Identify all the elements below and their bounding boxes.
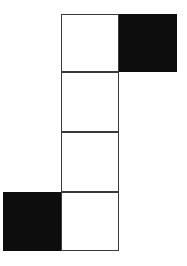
cell-top-white	[61, 14, 119, 72]
cell-third-white	[61, 132, 119, 192]
cell-top-right-black	[119, 14, 177, 72]
cell-bottom-left-black	[3, 192, 61, 251]
cell-bottom-white	[61, 192, 119, 251]
cell-second-white	[61, 72, 119, 132]
figure-canvas	[0, 0, 184, 266]
